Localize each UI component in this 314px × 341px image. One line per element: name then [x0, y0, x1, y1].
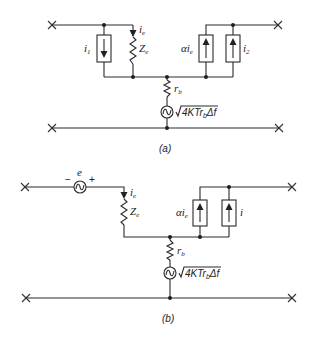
voltage-source-e-icon	[74, 181, 86, 193]
resistor-rb-b	[167, 240, 173, 260]
wires-b	[25, 187, 292, 298]
label-ie-b: ie	[130, 186, 136, 200]
panel-b: e − + ie Ze αie i rb	[21, 166, 296, 324]
current-source-i1	[97, 35, 111, 62]
label-rb-b: rb	[177, 244, 185, 258]
noise-label-a: 4KTrbΔf	[176, 106, 218, 119]
current-source-i-b	[222, 200, 236, 226]
noise-source-a-icon	[161, 106, 173, 118]
caption-b: (b)	[162, 313, 174, 324]
label-i2: i2	[243, 42, 250, 56]
current-source-alpha-ie-a	[199, 35, 213, 62]
resistor-Ze-b	[121, 192, 128, 225]
noise-source-b-icon	[164, 267, 176, 279]
label-Ze-a: Ze	[139, 42, 148, 56]
svg-text:4KTrbΔf: 4KTrbΔf	[185, 268, 221, 280]
label-Ze-b: Ze	[130, 205, 139, 219]
resistor-rb-a	[164, 80, 170, 97]
label-ie-a: ie	[139, 23, 145, 37]
label-minus: −	[65, 174, 71, 185]
circuit-diagram: i1 ie Ze αie i2 rb	[0, 0, 314, 341]
noise-label-b: 4KTrbΔf	[179, 267, 221, 280]
resistor-Ze-a	[130, 30, 137, 64]
current-source-i2	[226, 35, 240, 62]
caption-a: (a)	[159, 143, 171, 154]
svg-text:4KTrbΔf: 4KTrbΔf	[182, 107, 218, 119]
label-i1: i1	[84, 42, 91, 56]
current-source-alpha-ie-b	[193, 200, 207, 226]
label-plus: +	[89, 174, 95, 185]
label-alpha-ie-a: αie	[181, 42, 193, 56]
label-alpha-ie-b: αie	[176, 206, 188, 220]
label-rb-a: rb	[174, 82, 182, 96]
label-i-b: i	[240, 206, 243, 218]
panel-a: i1 ie Ze αie i2 rb	[48, 21, 283, 154]
label-e: e	[77, 166, 82, 178]
